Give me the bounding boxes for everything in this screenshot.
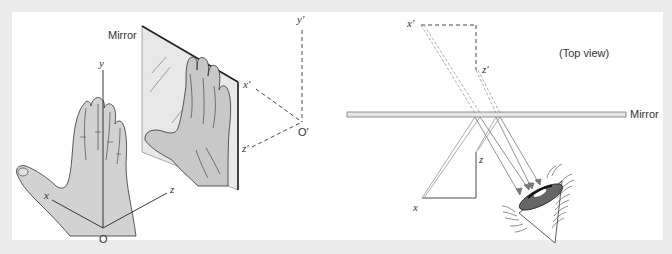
object-outline [422,152,476,198]
image-axes [252,30,302,147]
reflected-rays [475,117,541,195]
top-view-mirror [347,112,626,117]
eye [502,164,574,243]
origin-label: O [99,234,108,245]
top-z-prime-label: z′ [482,64,489,75]
right-mirror-label: Mirror [630,109,659,120]
y-axis-label: y [99,58,104,69]
z-prime-axis [252,122,302,147]
real-hand [16,97,136,236]
top-x-label: x [413,202,418,213]
origin-prime-label: O′ [298,127,309,138]
x-prime-label: x′ [243,79,250,90]
diagram-canvas [0,0,672,254]
top-z-label: z [479,154,483,165]
left-mirror-label: Mirror [108,30,137,41]
z-prime-label: z′ [242,143,249,154]
x-axis-label: x [44,190,49,201]
z-axis-label: z [170,184,174,195]
top-x-prime-label: x′ [407,18,414,29]
top-view-label: (Top view) [559,48,609,59]
x-prime-axis [256,89,302,122]
y-prime-label: y′ [297,14,304,25]
